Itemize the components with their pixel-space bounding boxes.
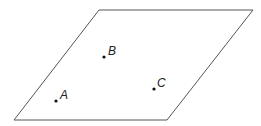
point-a: A bbox=[54, 88, 68, 103]
point-b: B bbox=[102, 44, 116, 59]
plane-parallelogram bbox=[14, 10, 253, 120]
point-a-dot bbox=[54, 99, 57, 102]
diagram-canvas: A B C bbox=[0, 0, 261, 126]
point-b-dot bbox=[102, 55, 105, 58]
point-c: C bbox=[152, 76, 166, 91]
point-c-dot bbox=[152, 87, 155, 90]
point-b-label: B bbox=[108, 44, 116, 58]
point-a-label: A bbox=[59, 88, 68, 102]
plane-diagram: A B C bbox=[0, 0, 261, 126]
point-c-label: C bbox=[157, 76, 166, 90]
